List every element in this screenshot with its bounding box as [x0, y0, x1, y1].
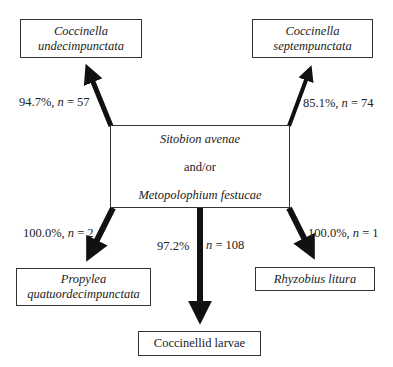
- arrow-to-rhyzobius: [289, 208, 310, 250]
- edge-n-value: = 74: [348, 96, 374, 110]
- edge-label-bottom-center-pct: 97.2%: [157, 239, 189, 253]
- edge-pct: 100.0%,: [308, 226, 353, 240]
- edge-pct: 97.2%: [157, 239, 189, 253]
- node-label-line1: Coccinella: [285, 24, 339, 39]
- node-label-line2: undecimpunctata: [38, 39, 124, 54]
- edge-label-top-right: 85.1%, n = 74: [303, 96, 374, 110]
- node-label-line2: quatuordecimpunctata: [27, 287, 140, 302]
- edge-n-value: = 1: [359, 226, 379, 240]
- node-c-undecimpunctata: Coccinella undecimpunctata: [20, 19, 142, 58]
- center-line-2: and/or: [184, 160, 216, 175]
- node-propylea: Propylea quatuordecimpunctata: [16, 268, 151, 306]
- node-label-line1: Rhyzobius litura: [274, 272, 356, 287]
- node-label-line1: Coccinella: [54, 24, 108, 39]
- arrow-to-propylea: [91, 208, 113, 252]
- node-coccinellid-larvae: Coccinellid larvae: [138, 331, 261, 356]
- node-c-septempunctata: Coccinella septempunctata: [252, 19, 373, 58]
- arrow-to-c-undecimpunctata: [89, 72, 111, 126]
- edge-label-bottom-left: 100.0%, n = 2: [23, 226, 94, 240]
- edge-pct: 94.7%,: [19, 95, 58, 109]
- edge-label-bottom-right: 100.0%, n = 1: [308, 226, 379, 240]
- node-label-line1: Coccinellid larvae: [154, 336, 245, 351]
- node-label-line1: Propylea: [61, 272, 106, 287]
- edge-label-top-left: 94.7%, n = 57: [19, 95, 90, 109]
- edge-n-value: = 57: [64, 95, 90, 109]
- node-rhyzobius: Rhyzobius litura: [255, 267, 375, 291]
- center-line-1: Sitobion avenae: [160, 132, 240, 147]
- edge-pct: 85.1%,: [303, 96, 342, 110]
- node-label-line2: septempunctata: [273, 39, 351, 54]
- center-box-aphids: Sitobion avenae and/or Metopolophium fes…: [110, 125, 290, 208]
- edge-n-value: = 108: [212, 238, 244, 252]
- edge-label-bottom-center-n: n = 108: [206, 238, 244, 252]
- edge-n-value: = 2: [74, 226, 94, 240]
- center-line-3: Metopolophium festucae: [138, 188, 261, 203]
- edge-pct: 100.0%,: [23, 226, 68, 240]
